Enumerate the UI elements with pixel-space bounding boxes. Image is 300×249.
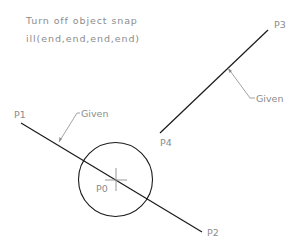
leader-left xyxy=(59,113,80,142)
cad-drawing: Turn off object snap ill(end,end,end,end… xyxy=(0,0,300,249)
crosshair-icon xyxy=(105,168,127,191)
point-label-p4: P4 xyxy=(160,137,172,148)
point-label-p0: P0 xyxy=(96,183,108,194)
instruction-line-2: ill(end,end,end,end) xyxy=(26,33,140,44)
line-p4-p3[interactable] xyxy=(160,30,268,133)
leader-right xyxy=(228,68,255,98)
point-label-p2: P2 xyxy=(207,227,219,238)
instruction-line-1: Turn off object snap xyxy=(25,15,138,26)
point-label-p3: P3 xyxy=(274,19,286,30)
given-label-left: Given xyxy=(81,108,109,119)
line-p1-p2[interactable] xyxy=(21,123,202,232)
given-label-right: Given xyxy=(256,93,284,104)
point-label-p1: P1 xyxy=(14,109,26,120)
